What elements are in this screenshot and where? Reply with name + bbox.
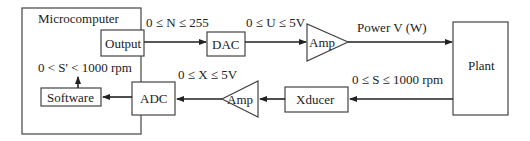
amp-forward-label: Amp (309, 35, 335, 50)
amp-feedback-label: Amp (227, 92, 253, 107)
amp-forward-block: Amp (307, 24, 348, 61)
n-range-label: 0 ≤ N ≤ 255 (146, 15, 209, 30)
dac-label: DAC (212, 37, 239, 52)
output-block: Output (101, 30, 144, 56)
u-range-label: 0 ≤ U ≤ 5V (246, 15, 306, 30)
s-range-label: 0 ≤ S ≤ 1000 rpm (352, 72, 443, 87)
output-label: Output (105, 36, 142, 51)
software-block: Software (41, 88, 101, 106)
power-label: Power V (W) (357, 20, 427, 35)
dac-block: DAC (207, 32, 245, 56)
xducer-label: Xducer (296, 92, 335, 107)
x-range-label: 0 ≤ X ≤ 5V (178, 67, 238, 82)
plant-label: Plant (468, 58, 495, 73)
amp-feedback-block: Amp (222, 81, 258, 117)
xducer-block: Xducer (285, 87, 348, 112)
control-loop-diagram: Microcomputer Output 0 ≤ N ≤ 255 DAC 0 ≤… (0, 0, 530, 141)
adc-label: ADC (140, 91, 167, 106)
s-prime-range-label: 0 < S' < 1000 rpm (38, 60, 132, 75)
adc-block: ADC (132, 82, 175, 115)
plant-block: Plant (453, 22, 508, 115)
microcomputer-label: Microcomputer (38, 11, 120, 26)
software-label: Software (47, 90, 94, 105)
